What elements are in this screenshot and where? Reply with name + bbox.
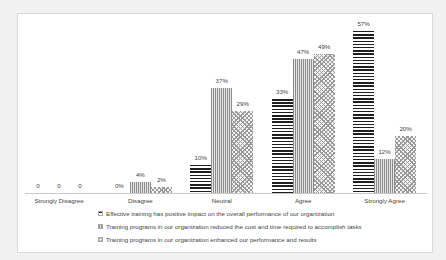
- chart-frame: 0000%4%2%10%37%29%33%47%49%57%12%20% Str…: [17, 13, 433, 253]
- legend-marker-diagonal-crosshatch-icon: [98, 237, 103, 242]
- x-axis-labels: Strongly DisagreeDisagreeNeutralAgreeStr…: [18, 14, 432, 214]
- legend-item: Training programs in our organization re…: [98, 223, 362, 231]
- legend-marker-horizontal-lines-icon: [98, 211, 103, 216]
- legend-item: Training programs in our organization en…: [98, 236, 362, 244]
- legend: Effective training has positive impact o…: [98, 210, 362, 244]
- category-label: Neutral: [181, 197, 262, 204]
- chart-canvas: 0000%4%2%10%37%29%33%47%49%57%12%20% Str…: [0, 0, 446, 260]
- legend-label: Effective training has positive impact o…: [106, 210, 334, 218]
- legend-marker-vertical-lines-icon: [98, 224, 103, 229]
- legend-item: Effective training has positive impact o…: [98, 210, 362, 218]
- legend-label: Training programs in our organization re…: [106, 223, 362, 231]
- category-label: Strongly Disagree: [18, 197, 99, 204]
- legend-label: Training programs in our organization en…: [106, 236, 317, 244]
- category-label: Strongly Agree: [344, 197, 425, 204]
- category-label: Agree: [263, 197, 344, 204]
- category-label: Disagree: [100, 197, 181, 204]
